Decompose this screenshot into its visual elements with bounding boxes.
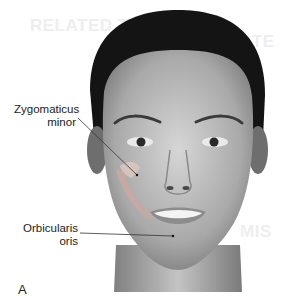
label-zygomaticus-minor: Zygomaticus minor — [14, 103, 76, 129]
label-zygomaticus-line2: minor — [14, 116, 76, 129]
face-illustration — [0, 0, 291, 303]
panel-letter: A — [18, 282, 27, 297]
label-orbicularis-line2: oris — [14, 235, 78, 248]
label-zygomaticus-line1: Zygomaticus — [14, 103, 76, 116]
label-orbicularis-line1: Orbicularis — [14, 222, 78, 235]
label-orbicularis-oris: Orbicularis oris — [14, 222, 78, 248]
face — [103, 50, 253, 270]
